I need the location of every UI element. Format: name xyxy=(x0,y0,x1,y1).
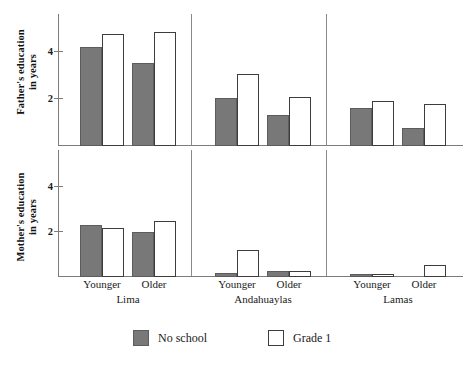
bar-father-grade-1-2 xyxy=(237,74,259,146)
panel-fathers-education: 2 4 xyxy=(58,14,463,146)
bar-mother-no-school-1 xyxy=(132,232,154,277)
y-tick-label-father-2: 2 xyxy=(48,93,53,104)
bar-father-grade-1-4 xyxy=(372,101,394,146)
x-tick-label-2: Younger xyxy=(218,278,255,290)
legend-item-grade-1: Grade 1 xyxy=(268,330,331,346)
bar-mother-grade-1-1 xyxy=(154,221,176,277)
group-separator-lima-andahuaylas-mother xyxy=(191,150,192,276)
bar-father-no-school-5 xyxy=(402,128,424,146)
y-tick-father-4: 4 xyxy=(58,51,59,52)
panel-mothers-education: 2 4 xyxy=(58,150,463,277)
y-axis-title-father-line2: in years xyxy=(27,54,38,90)
y-tick-label-mother-4: 4 xyxy=(48,181,53,192)
group-separator-lima-andahuaylas-father xyxy=(191,14,192,145)
y-axis-title-mother-line1: Mother's education xyxy=(15,173,26,262)
x-group-label-andahuaylas: Andahuaylas xyxy=(234,293,291,305)
bar-father-no-school-3 xyxy=(267,115,289,146)
bar-father-grade-1-3 xyxy=(289,97,311,146)
bar-mother-grade-1-2 xyxy=(237,250,259,277)
bar-mother-grade-1-4 xyxy=(372,274,394,277)
group-separator-andahuaylas-lamas-mother xyxy=(326,150,327,276)
y-axis-line-father xyxy=(58,14,59,146)
chart-legend: No school Grade 1 xyxy=(0,330,469,352)
bar-mother-no-school-4 xyxy=(350,274,372,277)
legend-label-grade-1: Grade 1 xyxy=(293,331,331,346)
group-separator-andahuaylas-lamas-father xyxy=(326,14,327,145)
bar-father-grade-1-1 xyxy=(154,32,176,146)
x-tick-label-1: Older xyxy=(141,278,166,290)
bar-mother-no-school-0 xyxy=(80,225,102,277)
bar-father-no-school-2 xyxy=(215,98,237,146)
bar-mother-grade-1-0 xyxy=(102,228,124,278)
y-tick-father-2: 2 xyxy=(58,98,59,99)
y-tick-mother-4: 4 xyxy=(58,186,59,187)
y-axis-title-mother-line2: in years xyxy=(27,199,38,235)
legend-swatch-no-school xyxy=(133,330,149,346)
bar-mother-grade-1-5 xyxy=(424,265,446,277)
y-tick-mother-2: 2 xyxy=(58,231,59,232)
y-axis-title-father: Father's education in years xyxy=(15,7,39,137)
y-tick-label-father-4: 4 xyxy=(48,46,53,57)
x-group-label-lamas: Lamas xyxy=(383,293,412,305)
x-tick-label-0: Younger xyxy=(83,278,120,290)
bar-father-grade-1-0 xyxy=(102,34,124,146)
bar-father-no-school-1 xyxy=(132,63,154,146)
x-axis-labels: YoungerOlderYoungerOlderYoungerOlderLima… xyxy=(58,278,463,312)
legend-swatch-grade-1 xyxy=(268,330,284,346)
bar-mother-no-school-2 xyxy=(215,273,237,278)
bar-mother-grade-1-3 xyxy=(289,271,311,277)
x-tick-label-4: Younger xyxy=(353,278,390,290)
bar-father-grade-1-5 xyxy=(424,104,446,146)
bar-father-no-school-0 xyxy=(80,47,102,146)
y-axis-line-mother xyxy=(58,150,59,277)
y-tick-label-mother-2: 2 xyxy=(48,226,53,237)
legend-item-no-school: No school xyxy=(133,330,207,346)
bar-mother-no-school-3 xyxy=(267,271,289,277)
legend-label-no-school: No school xyxy=(158,331,207,346)
x-group-label-lima: Lima xyxy=(116,293,139,305)
y-axis-title-father-line1: Father's education xyxy=(15,29,26,115)
figure-caption-clipped xyxy=(24,360,454,367)
x-tick-label-5: Older xyxy=(411,278,436,290)
x-tick-label-3: Older xyxy=(276,278,301,290)
figure-bar-chart-parental-education: Father's education in years 2 4 Mother's… xyxy=(0,0,469,367)
y-axis-title-mother: Mother's education in years xyxy=(15,152,39,282)
bar-father-no-school-4 xyxy=(350,108,372,146)
